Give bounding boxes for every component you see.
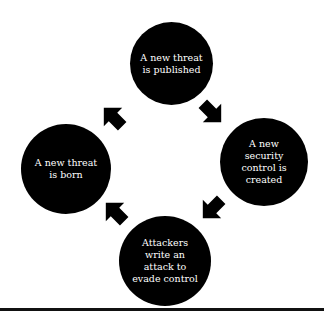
node-label-line: A new threat <box>140 52 202 64</box>
node-label-line: write an <box>132 249 198 261</box>
node-label-line: attack to <box>132 261 198 273</box>
node-label-line: is born <box>35 169 97 181</box>
horizontal-rule <box>0 308 324 311</box>
node-label-line: Attackers <box>132 237 198 249</box>
arrow-down-left-icon <box>197 194 227 224</box>
arrow-up-right-icon <box>98 102 128 132</box>
node-label-line: A new <box>241 138 286 150</box>
node-label-line: is published <box>140 64 202 76</box>
node-attackers-evade-control: Attackers write an attack to evade contr… <box>119 216 211 306</box>
node-label-line: control is <box>241 162 286 174</box>
node-label-line: created <box>241 174 286 186</box>
node-label-line: A new threat <box>35 157 97 169</box>
node-threat-born: A new threat is born <box>21 124 111 214</box>
arrow-up-left-icon <box>100 197 130 227</box>
node-threat-published: A new threat is published <box>130 22 213 105</box>
node-label-line: evade control <box>132 273 198 285</box>
node-security-control-created: A new security control is created <box>220 118 308 206</box>
arrow-down-right-icon <box>197 98 227 128</box>
node-label-line: security <box>241 150 286 162</box>
threat-cycle-diagram: A new threat is published A new security… <box>0 0 324 318</box>
